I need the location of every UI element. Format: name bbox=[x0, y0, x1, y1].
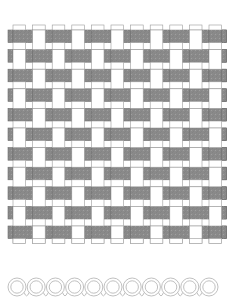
weave-vertical-strip-segment bbox=[189, 239, 202, 244]
spiral-loop-connector bbox=[63, 293, 68, 296]
spiral-loop-connector bbox=[178, 293, 183, 296]
weave-horizontal-strip-texture bbox=[222, 206, 227, 219]
weave-horizontal-strip-texture bbox=[72, 128, 92, 141]
weave-vertical-strip-segment bbox=[33, 69, 46, 89]
weave-horizontal-strip-texture bbox=[13, 108, 33, 121]
weave-horizontal-strip-texture bbox=[189, 89, 209, 102]
weave-vertical-strip-segment bbox=[91, 50, 104, 70]
spiral-loop-connector bbox=[82, 293, 87, 296]
weave-horizontal-strip-texture bbox=[111, 50, 131, 63]
weave-horizontal-strip-texture bbox=[222, 69, 227, 82]
weave-vertical-strip-segment bbox=[150, 180, 163, 187]
weave-horizontal-strip-texture bbox=[8, 128, 13, 141]
spiral-loop-inner-ring bbox=[49, 281, 61, 293]
weave-horizontal-strip-texture bbox=[189, 206, 209, 219]
weave-vertical-strip-segment bbox=[150, 62, 163, 69]
weave-horizontal-strip-texture bbox=[170, 69, 190, 82]
weave-vertical-strip-segment bbox=[170, 43, 183, 50]
spiral-loop-inner-ring bbox=[107, 281, 119, 293]
weave-horizontal-strip-texture bbox=[8, 167, 13, 180]
spiral-loop-connector bbox=[159, 293, 164, 296]
weave-vertical-strip-segment bbox=[209, 43, 222, 50]
weave-vertical-strip-segment bbox=[13, 199, 26, 206]
weave-horizontal-strips bbox=[8, 30, 227, 239]
weave-vertical-strip-segment bbox=[150, 69, 163, 89]
spiral-loop-connector bbox=[43, 293, 48, 296]
weave-horizontal-strip-texture bbox=[150, 89, 170, 102]
weave-horizontal-strip-texture bbox=[222, 187, 227, 200]
weave-vertical-strip-segment bbox=[111, 69, 124, 89]
weave-horizontal-strip-texture bbox=[222, 50, 227, 63]
weave-vertical-strip-segment bbox=[170, 206, 183, 226]
weave-horizontal-strip-texture bbox=[222, 167, 227, 180]
weave-horizontal-strip-texture bbox=[52, 226, 72, 239]
weave-vertical-strip-segment bbox=[111, 187, 124, 207]
weave-vertical-strip-segment bbox=[150, 101, 163, 108]
weave-horizontal-strip-texture bbox=[111, 89, 131, 102]
weave-vertical-strip-segment bbox=[52, 160, 65, 167]
weave-horizontal-strip-texture bbox=[8, 187, 13, 200]
weave-horizontal-strip-texture bbox=[189, 128, 209, 141]
weave-vertical-strip-segment bbox=[209, 167, 222, 187]
weave-vertical-strip-segment bbox=[131, 89, 144, 109]
weave-vertical-strip-segment bbox=[33, 219, 46, 226]
spiral-loop-inner-ring bbox=[11, 281, 23, 293]
weave-horizontal-strip-texture bbox=[111, 128, 131, 141]
weave-vertical-strip-segment bbox=[52, 239, 65, 244]
weave-vertical-strip-segment bbox=[111, 219, 124, 226]
weave-vertical-strip-segment bbox=[209, 25, 222, 30]
weave-vertical-strip-segment bbox=[131, 25, 144, 30]
weave-vertical-strip-segment bbox=[189, 108, 202, 128]
spiral-loop-connector bbox=[24, 293, 29, 296]
weave-vertical-strip-segment bbox=[209, 121, 222, 128]
weave-vertical-strip-segment bbox=[52, 50, 65, 70]
weave-horizontal-strip-texture bbox=[8, 206, 13, 219]
weave-vertical-strip-segment bbox=[189, 141, 202, 148]
spiral-loop-inner-ring bbox=[126, 281, 138, 293]
weave-vertical-strip-segment bbox=[33, 30, 46, 50]
weave-horizontal-strip-texture bbox=[8, 50, 13, 63]
weave-horizontal-strip-texture bbox=[150, 128, 170, 141]
weave-vertical-strip-segment bbox=[150, 108, 163, 128]
weave-horizontal-strip-texture bbox=[8, 30, 13, 43]
weave-horizontal-strip-texture bbox=[222, 30, 227, 43]
weave-vertical-strip-segment bbox=[13, 25, 26, 30]
weave-vertical-strip-segment bbox=[170, 121, 183, 128]
weave-vertical-strip-segment bbox=[72, 108, 85, 128]
spiral-loop-border-canvas bbox=[0, 262, 240, 308]
weave-vertical-strip-segment bbox=[91, 206, 104, 226]
weave-vertical-strip-segment bbox=[72, 69, 85, 89]
weave-vertical-strip-segment bbox=[91, 89, 104, 109]
spiral-loop-border-figure bbox=[0, 262, 240, 308]
weave-vertical-strip-segment bbox=[91, 167, 104, 187]
weave-horizontal-strip-texture bbox=[33, 50, 53, 63]
weave-horizontal-strip-texture bbox=[91, 69, 111, 82]
spiral-loop-inner-ring bbox=[164, 281, 176, 293]
spiral-loop-inner-ring bbox=[88, 281, 100, 293]
weave-vertical-strip-segment bbox=[189, 148, 202, 168]
weave-vertical-strip-segment bbox=[111, 25, 124, 30]
weave-vertical-strip-segment bbox=[170, 160, 183, 167]
weave-horizontal-strip-texture bbox=[33, 128, 53, 141]
weave-horizontal-strip-texture bbox=[8, 69, 13, 82]
weave-vertical-strip-segment bbox=[13, 239, 26, 244]
weave-horizontal-strip-texture bbox=[131, 108, 151, 121]
weave-horizontal-strip-texture bbox=[131, 148, 151, 161]
weave-vertical-strip-segment bbox=[13, 50, 26, 70]
weave-horizontal-strip-texture bbox=[111, 167, 131, 180]
weave-vertical-strip-segment bbox=[170, 50, 183, 70]
weave-vertical-strip-segment bbox=[170, 128, 183, 148]
weave-horizontal-strip-texture bbox=[13, 187, 33, 200]
weave-vertical-strip-segment bbox=[131, 167, 144, 187]
weave-horizontal-strip-texture bbox=[222, 226, 227, 239]
weave-vertical-strip-segment bbox=[209, 239, 222, 244]
weave-horizontal-strip-texture bbox=[33, 167, 53, 180]
spiral-loop-inner-ring bbox=[145, 281, 157, 293]
weave-vertical-strip-segment bbox=[13, 167, 26, 187]
weave-vertical-strip-segment bbox=[189, 187, 202, 207]
weave-vertical-strip-segment bbox=[33, 141, 46, 148]
weave-vertical-strip-segment bbox=[131, 121, 144, 128]
weave-vertical-strip-segment bbox=[13, 160, 26, 167]
weave-horizontal-strip-texture bbox=[52, 30, 72, 43]
weave-vertical-strip-segment bbox=[52, 89, 65, 109]
